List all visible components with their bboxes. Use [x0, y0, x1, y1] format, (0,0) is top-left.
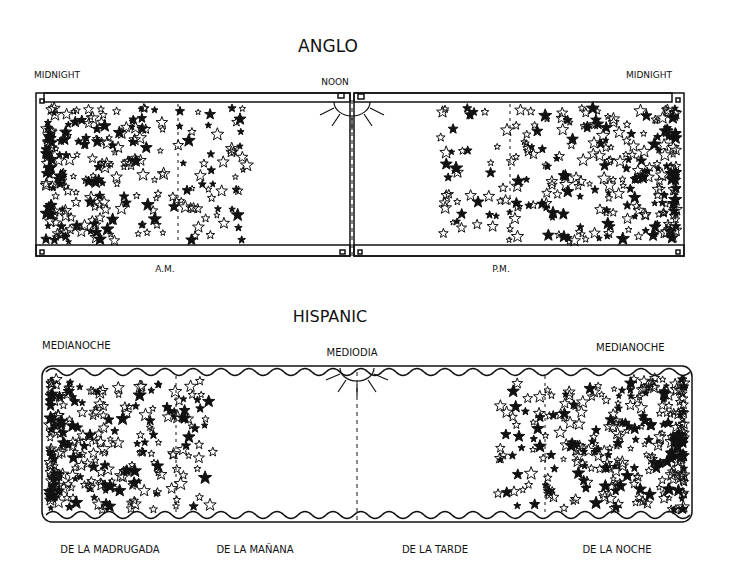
star-icon: [439, 228, 449, 237]
star-icon: [41, 234, 51, 244]
star-icon: [111, 427, 119, 435]
star-icon: [518, 444, 525, 451]
anglo-pm-label: P.M.: [492, 264, 510, 274]
star-icon: [481, 108, 489, 115]
star-icon: [644, 435, 653, 444]
star-icon: [73, 189, 80, 195]
anglo-am-label: A.M.: [155, 264, 175, 274]
star-icon: [659, 493, 670, 503]
star-icon: [178, 197, 184, 203]
star-icon: [577, 223, 584, 230]
star-icon: [237, 143, 244, 149]
star-icon: [487, 159, 494, 165]
star-icon: [206, 231, 215, 239]
star-icon: [487, 221, 498, 232]
star-icon: [642, 227, 649, 234]
star-icon: [623, 201, 632, 209]
hispanic-title: HISPANIC: [293, 307, 367, 326]
star-icon: [486, 211, 494, 219]
star-icon: [70, 173, 76, 179]
star-icon: [627, 129, 636, 137]
star-icon: [558, 208, 570, 219]
star-icon: [201, 422, 208, 428]
star-icon: [551, 465, 559, 473]
star-icon: [210, 181, 216, 187]
star-icon: [514, 502, 521, 509]
star-icon: [121, 164, 127, 170]
hispanic-night-stars: [44, 373, 690, 514]
hispanic-medianoche-right: MEDIANOCHE: [596, 342, 665, 353]
period-manana: DE LA MAÑANA: [216, 543, 293, 555]
star-icon: [185, 380, 197, 392]
star-icon: [436, 133, 445, 141]
star-icon: [189, 185, 195, 191]
star-icon: [116, 412, 129, 424]
star-icon: [539, 454, 547, 462]
anglo-title: ANGLO: [298, 36, 358, 56]
star-icon: [207, 194, 215, 202]
star-icon: [622, 213, 633, 224]
star-icon: [616, 393, 622, 399]
star-icon: [542, 188, 552, 197]
star-icon: [512, 469, 523, 479]
anglo-sun-icon: [320, 102, 384, 130]
star-icon: [154, 190, 162, 197]
star-icon: [201, 214, 210, 222]
star-icon: [507, 225, 514, 232]
star-icon: [150, 405, 157, 411]
star-icon: [71, 197, 81, 206]
star-icon: [229, 206, 235, 212]
star-icon: [577, 193, 584, 199]
star-icon: [465, 190, 476, 201]
star-icon: [634, 232, 643, 240]
star-icon: [449, 149, 455, 155]
star-icon: [628, 446, 634, 452]
star-icon: [87, 114, 94, 120]
star-icon: [196, 404, 205, 413]
star-icon: [136, 478, 142, 484]
star-icon: [656, 410, 663, 416]
star-icon: [638, 145, 651, 157]
star-icon: [511, 230, 523, 242]
star-icon: [172, 465, 181, 473]
star-icon: [538, 145, 546, 153]
star-icon: [97, 442, 110, 455]
time-diagram: ANGLO MIDNIGHT NOON MIDNIGHT A.M. P.M. H…: [0, 0, 732, 573]
star-icon: [524, 467, 537, 480]
star-icon: [180, 160, 186, 166]
star-icon: [211, 128, 224, 140]
star-icon: [208, 447, 217, 456]
star-icon: [144, 229, 151, 236]
star-icon: [611, 386, 617, 392]
star-icon: [643, 488, 656, 501]
star-icon: [625, 226, 632, 232]
star-icon: [193, 452, 204, 463]
star-icon: [630, 464, 638, 472]
star-icon: [77, 407, 87, 417]
star-icon: [183, 431, 195, 443]
star-icon: [635, 401, 648, 413]
star-icon: [173, 496, 180, 503]
star-icon: [530, 419, 537, 425]
star-icon: [472, 219, 482, 228]
star-icon: [547, 450, 556, 459]
star-icon: [472, 196, 484, 207]
star-icon: [195, 170, 207, 181]
star-icon: [205, 109, 216, 119]
star-icon: [151, 106, 158, 112]
star-icon: [542, 432, 549, 438]
star-icon: [196, 493, 204, 501]
star-icon: [235, 224, 243, 231]
star-icon: [52, 192, 60, 199]
star-icon: [232, 174, 238, 180]
star-icon: [610, 176, 617, 182]
star-icon: [214, 212, 220, 218]
star-icon: [91, 494, 98, 501]
star-icon: [588, 464, 596, 471]
star-icon: [515, 104, 527, 115]
star-icon: [215, 205, 222, 211]
star-icon: [228, 104, 236, 112]
star-icon: [623, 121, 631, 128]
star-icon: [133, 192, 140, 199]
star-icon: [494, 143, 501, 149]
